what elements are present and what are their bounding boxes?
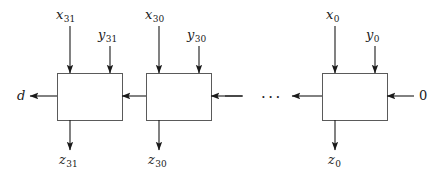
label-x31: x31 [56, 8, 75, 21]
label-z31: z31 [59, 153, 77, 166]
diagram-svg [0, 0, 444, 178]
cell-box-30 [147, 74, 212, 121]
label-y30: y30 [187, 28, 206, 41]
label-z30: z30 [148, 153, 166, 166]
cell-box-0 [323, 74, 388, 121]
ellipsis: ··· [261, 88, 283, 106]
label-y31: y31 [98, 28, 117, 41]
label-x30: x30 [145, 8, 164, 21]
cell-box-31 [58, 74, 123, 121]
label-y0: y0 [366, 28, 379, 41]
label-borrow-in: 0 [419, 89, 427, 102]
label-x0: x0 [326, 8, 339, 21]
label-borrow-out: d [17, 89, 25, 102]
figure-canvas: x31 y31 z31 x30 y30 z30 x0 y0 z0 d 0 ··· [0, 0, 444, 178]
label-z0: z0 [328, 153, 341, 166]
